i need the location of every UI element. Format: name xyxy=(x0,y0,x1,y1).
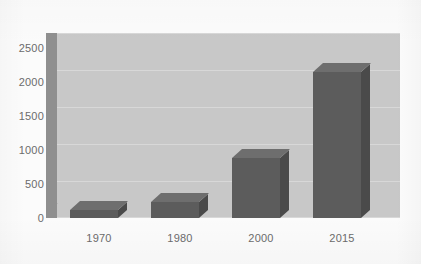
axis-wall xyxy=(46,33,57,218)
bar-1980 xyxy=(151,202,199,218)
x-tick-label-1980: 1980 xyxy=(167,232,192,244)
bar-side-face xyxy=(361,64,370,218)
bar-front-face xyxy=(313,72,361,218)
bar-front-face xyxy=(70,210,118,218)
y-tick-label: 500 xyxy=(0,178,44,190)
bar-side-face xyxy=(280,150,289,218)
bar-top-face xyxy=(232,149,290,158)
bar-top-face xyxy=(151,193,209,202)
y-axis: 2500 2000 1500 1000 500 0 xyxy=(0,0,44,264)
bar-front-face xyxy=(232,158,280,218)
y-tick-label: 0 xyxy=(0,212,44,224)
bar-chart: 2500 2000 1500 1000 500 0 1970 1980 2000… xyxy=(0,0,421,264)
x-tick-label-2015: 2015 xyxy=(329,232,354,244)
y-tick-label: 1000 xyxy=(0,144,44,156)
gridline-2500 xyxy=(57,33,400,34)
bar-2015 xyxy=(313,72,361,218)
bar-top-face xyxy=(313,63,371,72)
bar-top-face xyxy=(70,201,128,210)
y-tick-label: 1500 xyxy=(0,110,44,122)
axis-floor-wedge xyxy=(46,203,58,219)
x-tick-label-1970: 1970 xyxy=(86,232,111,244)
bar-2000 xyxy=(232,158,280,218)
y-tick-label: 2500 xyxy=(0,42,44,54)
y-tick-label: 2000 xyxy=(0,76,44,88)
x-tick-label-2000: 2000 xyxy=(248,232,273,244)
bar-front-face xyxy=(151,202,199,218)
bar-1970 xyxy=(70,210,118,218)
